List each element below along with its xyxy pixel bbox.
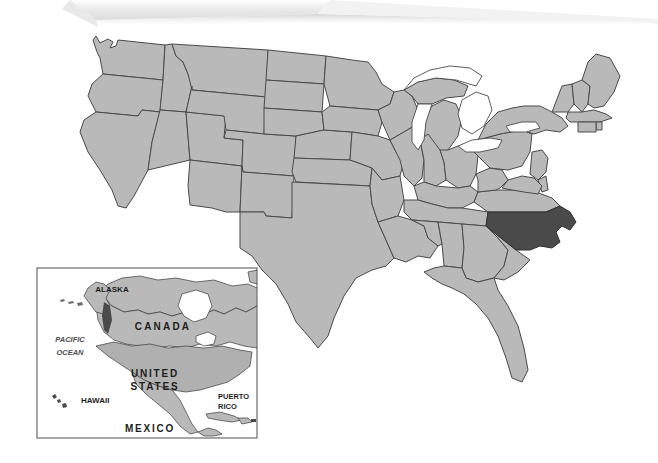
inset-label-puerto: PUERTO (218, 392, 249, 401)
inset-label-ocean: OCEAN (56, 348, 84, 357)
inset-label-pacific: PACIFIC (55, 335, 85, 344)
inset-puerto-rico-island (251, 419, 256, 422)
north-america-locator-inset: ALASKA CANADA PACIFIC OCEAN UNITED STATE… (37, 268, 257, 438)
us-map-graphic: ALASKA CANADA PACIFIC OCEAN UNITED STATE… (0, 0, 658, 463)
state-north-dakota (266, 50, 326, 84)
inset-label-united: UNITED (131, 368, 179, 379)
inset-label-canada: CANADA (135, 321, 192, 332)
state-south-dakota (264, 80, 324, 112)
state-oregon (88, 74, 163, 116)
inset-label-rico: RICO (218, 402, 237, 411)
state-rhode-island (596, 122, 602, 130)
inset-label-hawaii: HAWAII (81, 396, 109, 405)
state-arizona (188, 160, 242, 212)
state-kansas (294, 130, 352, 160)
state-connecticut (578, 122, 596, 132)
map-canvas: ALASKA CANADA PACIFIC OCEAN UNITED STATE… (0, 0, 658, 463)
inset-label-mexico: MEXICO (125, 423, 175, 434)
inset-label-states: STATES (131, 381, 180, 392)
inset-label-alaska: ALASKA (95, 285, 129, 294)
